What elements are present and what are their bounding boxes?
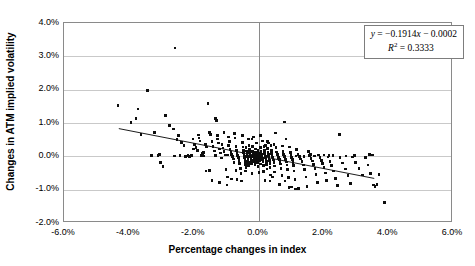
- y-axis-tick-labels: -2.0%-1.0%0.0%1.0%2.0%3.0%4.0%: [0, 0, 59, 266]
- data-point: [262, 170, 265, 173]
- data-point: [334, 177, 337, 180]
- data-point: [295, 148, 298, 151]
- y-axis-tick-label: 0.0%: [38, 151, 59, 160]
- data-point: [241, 134, 244, 137]
- data-point: [227, 136, 230, 139]
- scatter-chart: Changes in ATM implied volatility -2.0%-…: [0, 0, 475, 266]
- data-point: [130, 121, 133, 124]
- data-point: [236, 178, 239, 181]
- data-point: [367, 164, 370, 167]
- data-point: [216, 138, 219, 141]
- data-point: [288, 146, 291, 149]
- data-point: [222, 147, 225, 150]
- data-point: [244, 170, 247, 173]
- data-point: [345, 155, 348, 158]
- data-point: [218, 148, 221, 151]
- data-point: [199, 140, 202, 143]
- data-point: [157, 154, 160, 157]
- y-axis-tick-label: 4.0%: [38, 18, 59, 27]
- data-point: [303, 155, 306, 158]
- data-point: [269, 162, 272, 165]
- data-point: [261, 140, 264, 143]
- data-point: [273, 165, 276, 168]
- data-point: [211, 179, 214, 182]
- data-point: [247, 138, 250, 141]
- data-point: [233, 132, 236, 135]
- data-point: [321, 162, 324, 165]
- data-point: [292, 161, 295, 164]
- data-point: [184, 155, 187, 158]
- data-point: [332, 170, 335, 173]
- data-point: [140, 133, 143, 136]
- x-axis-tick-label: -2.0%: [181, 228, 205, 237]
- data-point: [255, 142, 258, 145]
- data-point: [344, 168, 347, 171]
- data-point: [271, 176, 274, 179]
- data-point: [274, 132, 277, 135]
- data-point: [226, 176, 229, 179]
- data-point: [361, 174, 364, 177]
- data-point: [305, 176, 308, 179]
- data-point: [332, 154, 335, 157]
- data-point: [235, 169, 238, 172]
- data-point: [294, 188, 297, 191]
- data-point: [383, 201, 386, 204]
- data-point: [225, 168, 228, 171]
- data-point: [325, 179, 328, 182]
- data-point: [212, 145, 215, 148]
- data-point: [353, 154, 356, 157]
- data-point: [226, 184, 229, 187]
- data-point: [214, 154, 217, 157]
- data-point: [286, 168, 289, 171]
- y-axis-tick-label: -1.0%: [35, 184, 59, 193]
- data-point: [174, 47, 177, 50]
- data-point: [205, 170, 208, 173]
- data-point: [270, 144, 273, 147]
- data-point: [292, 164, 295, 167]
- data-point: [287, 176, 290, 179]
- data-point: [245, 146, 248, 149]
- data-point: [209, 133, 212, 136]
- data-point: [264, 179, 267, 182]
- data-point: [339, 156, 342, 159]
- data-point: [216, 134, 219, 137]
- x-axis-tick-label: 2.0%: [312, 228, 333, 237]
- data-point: [267, 142, 270, 145]
- data-point: [213, 150, 216, 153]
- data-point: [316, 181, 319, 184]
- x-axis-tick-label: -6.0%: [51, 228, 75, 237]
- data-point: [302, 164, 305, 167]
- data-point: [323, 154, 326, 157]
- data-point: [354, 161, 357, 164]
- r-squared-value: R2 = 0.3333: [371, 40, 457, 54]
- data-point: [217, 142, 220, 145]
- data-point: [311, 160, 314, 163]
- equation-body: = −0.1914: [375, 29, 417, 39]
- data-point: [252, 136, 255, 139]
- data-point: [378, 173, 381, 176]
- data-point: [196, 149, 199, 152]
- data-point: [280, 167, 283, 170]
- data-point: [233, 161, 236, 164]
- data-point: [273, 171, 276, 174]
- data-point: [323, 166, 326, 169]
- data-point: [176, 138, 179, 141]
- data-point: [262, 161, 265, 164]
- x-axis-tick-labels: -6.0%-4.0%-2.0%0.0%2.0%4.0%6.0%: [0, 228, 475, 242]
- data-point: [284, 180, 287, 183]
- data-point: [281, 145, 284, 148]
- data-point: [234, 137, 237, 140]
- data-point: [338, 133, 341, 136]
- data-point: [197, 134, 200, 137]
- data-point: [137, 108, 140, 111]
- axis-line-vertical-zero: [259, 23, 260, 221]
- data-point: [364, 156, 367, 159]
- data-point: [207, 102, 210, 105]
- data-point: [179, 154, 182, 157]
- data-point: [238, 159, 241, 162]
- data-point: [269, 180, 272, 183]
- data-point: [223, 150, 226, 153]
- data-point: [168, 124, 171, 127]
- data-point: [257, 165, 260, 168]
- data-point: [159, 161, 162, 164]
